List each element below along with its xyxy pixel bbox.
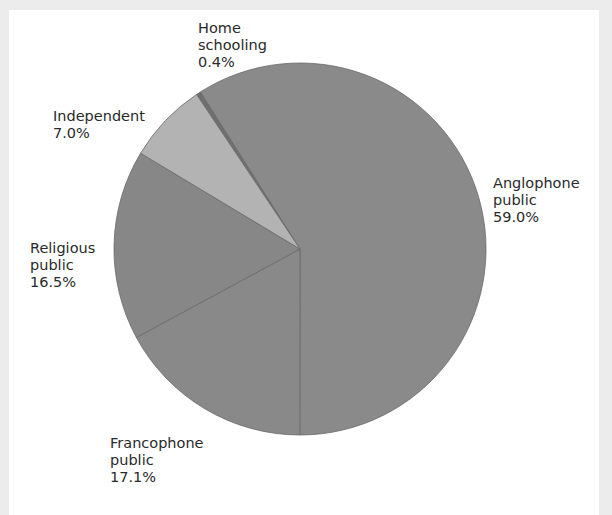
label-home-schooling: Home schooling 0.4% bbox=[198, 20, 267, 71]
label-religious-public: Religious public 16.5% bbox=[30, 240, 95, 291]
label-francophone-line2: public bbox=[110, 452, 204, 469]
label-anglophone-value: 59.0% bbox=[493, 209, 580, 226]
label-independent-line1: Independent bbox=[53, 108, 145, 125]
label-anglophone-public: Anglophone public 59.0% bbox=[493, 175, 580, 226]
label-anglophone-line2: public bbox=[493, 192, 580, 209]
label-home-value: 0.4% bbox=[198, 54, 267, 71]
label-home-line2: schooling bbox=[198, 37, 267, 54]
label-religious-value: 16.5% bbox=[30, 274, 95, 291]
label-independent: Independent 7.0% bbox=[53, 108, 145, 142]
label-independent-value: 7.0% bbox=[53, 125, 145, 142]
label-religious-line1: Religious bbox=[30, 240, 95, 257]
label-anglophone-line1: Anglophone bbox=[493, 175, 580, 192]
label-home-line1: Home bbox=[198, 20, 267, 37]
label-francophone-public: Francophone public 17.1% bbox=[110, 435, 204, 486]
label-religious-line2: public bbox=[30, 257, 95, 274]
label-francophone-line1: Francophone bbox=[110, 435, 204, 452]
label-francophone-value: 17.1% bbox=[110, 469, 204, 486]
